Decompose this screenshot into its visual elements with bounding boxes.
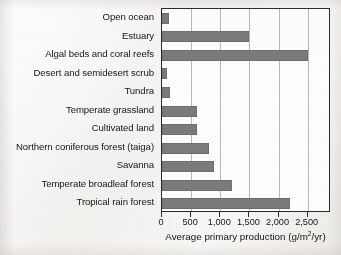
primary-production-bar-chart: Open oceanEstuaryAlgal beds and coral re… xyxy=(0,0,341,255)
category-label: Tundra xyxy=(124,82,154,101)
category-label: Algal beds and coral reefs xyxy=(45,45,154,64)
bar xyxy=(162,106,197,117)
category-label: Open ocean xyxy=(103,8,154,27)
bar xyxy=(162,13,169,24)
bar xyxy=(162,87,170,98)
category-label: Desert and semidesert scrub xyxy=(34,64,154,83)
bar xyxy=(162,180,232,191)
category-label: Savanna xyxy=(117,156,154,175)
tick-label-2000: 2,000 xyxy=(266,216,289,229)
tick-label-2500: 2,500 xyxy=(295,216,318,229)
bar xyxy=(162,143,209,154)
category-label: Temperate grassland xyxy=(66,101,154,120)
x-axis-title-pre: Average primary production (g/m xyxy=(165,231,307,242)
tick-label-0: 0 xyxy=(158,216,163,229)
bar xyxy=(162,161,214,172)
tick-label-1000: 1,000 xyxy=(208,216,231,229)
category-label: Northern coniferous forest (taiga) xyxy=(16,138,154,157)
bar xyxy=(162,68,167,79)
category-label: Tropical rain forest xyxy=(77,193,155,212)
category-axis-labels: Open oceanEstuaryAlgal beds and coral re… xyxy=(0,8,158,212)
x-axis-title-post: /yr) xyxy=(312,231,326,242)
category-label: Cultivated land xyxy=(92,119,154,138)
bar xyxy=(162,198,290,209)
x-axis-tick-labels: 05001,0001,5002,0002,500 xyxy=(120,216,341,229)
tick-label-500: 500 xyxy=(182,216,197,229)
category-label: Temperate broadleaf forest xyxy=(41,175,154,194)
bars-layer xyxy=(162,9,329,211)
category-label: Estuary xyxy=(122,27,154,46)
x-axis-title: Average primary production (g/m2/yr) xyxy=(161,231,330,242)
bar xyxy=(162,31,249,42)
bar xyxy=(162,124,197,135)
bar xyxy=(162,50,308,61)
tick-label-1500: 1,500 xyxy=(237,216,260,229)
plot-area xyxy=(161,8,330,212)
